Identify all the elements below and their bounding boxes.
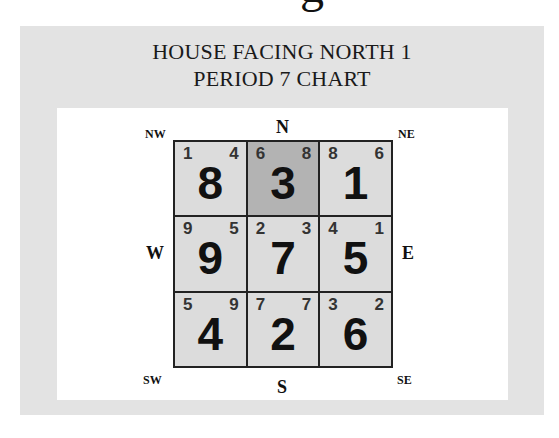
grid-cell-w: 9 5 9: [175, 217, 246, 290]
grid-cell-center: 2 3 7: [248, 217, 319, 290]
chart-panel: NW N NE W E SW S SE 1 4 8 6 8 3 8 6 1: [57, 108, 508, 400]
direction-se: SE: [397, 374, 412, 386]
chart-title-line-1: HOUSE FACING NORTH 1: [20, 38, 544, 65]
grid-cell-se: 3 2 6: [320, 293, 391, 366]
flying-star-grid: 1 4 8 6 8 3 8 6 1 9 5 9 2 3: [173, 140, 393, 368]
chart-frame: HOUSE FACING NORTH 1 PERIOD 7 CHART NW N…: [20, 26, 544, 415]
base-star: 3: [248, 160, 319, 206]
base-star: 7: [248, 235, 319, 281]
partial-heading-glyph: g: [300, 0, 324, 10]
grid-cell-s: 7 7 2: [248, 293, 319, 366]
grid-cell-n: 6 8 3: [248, 142, 319, 215]
direction-s: S: [277, 378, 287, 396]
grid-cell-sw: 5 9 4: [175, 293, 246, 366]
base-star: 6: [320, 311, 391, 357]
base-star: 8: [175, 160, 246, 206]
base-star: 9: [175, 235, 246, 281]
base-star: 1: [320, 160, 391, 206]
direction-sw: SW: [143, 374, 162, 386]
direction-nw: NW: [145, 128, 166, 140]
chart-title-line-2: PERIOD 7 CHART: [20, 65, 544, 92]
direction-n: N: [276, 118, 289, 136]
direction-ne: NE: [398, 128, 415, 140]
direction-e: E: [402, 244, 414, 262]
base-star: 4: [175, 311, 246, 357]
grid-cell-nw: 1 4 8: [175, 142, 246, 215]
grid-cell-ne: 8 6 1: [320, 142, 391, 215]
grid-cell-e: 4 1 5: [320, 217, 391, 290]
direction-w: W: [146, 244, 164, 262]
chart-title: HOUSE FACING NORTH 1 PERIOD 7 CHART: [20, 38, 544, 92]
base-star: 2: [248, 311, 319, 357]
base-star: 5: [320, 235, 391, 281]
